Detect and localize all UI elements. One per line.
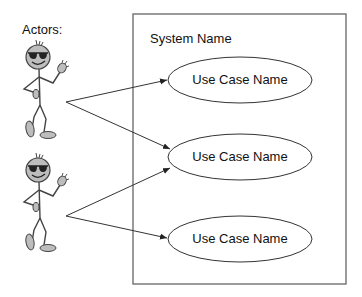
association-actor1-uc2 bbox=[66, 102, 170, 149]
association-actor2-uc3 bbox=[66, 216, 167, 238]
use-case-label-3: Use Case Name bbox=[167, 231, 313, 246]
actor-2-stick-figure-icon[interactable] bbox=[24, 153, 69, 252]
actors-label: Actors: bbox=[22, 22, 62, 37]
actor-1-stick-figure-icon[interactable] bbox=[24, 40, 69, 139]
association-actor2-uc2 bbox=[66, 168, 170, 216]
association-actor1-uc1 bbox=[66, 80, 167, 102]
system-name-label: System Name bbox=[150, 31, 232, 46]
use-case-label-1: Use Case Name bbox=[167, 72, 313, 87]
use-case-label-2: Use Case Name bbox=[167, 149, 313, 164]
